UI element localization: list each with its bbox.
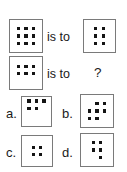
- dot: [32, 72, 35, 75]
- dot: [99, 141, 102, 144]
- premise-box-c: [9, 56, 43, 90]
- dot: [24, 72, 27, 75]
- dot: [92, 141, 95, 144]
- dot: [17, 42, 20, 45]
- option-label-d: d.: [62, 146, 73, 159]
- dot: [27, 99, 30, 102]
- dot: [88, 117, 91, 120]
- dot: [42, 99, 45, 102]
- dot: [99, 148, 102, 151]
- dot: [17, 27, 20, 30]
- dot: [17, 34, 20, 37]
- dot: [94, 42, 97, 45]
- dot: [24, 65, 27, 68]
- dot: [95, 102, 98, 105]
- dot: [32, 27, 35, 30]
- dot: [32, 65, 35, 68]
- dot: [24, 42, 27, 45]
- dot: [95, 117, 98, 120]
- dot-grid: [22, 136, 52, 166]
- dot: [35, 99, 38, 102]
- dot: [35, 107, 38, 110]
- dot: [32, 146, 35, 149]
- dot: [94, 34, 97, 37]
- option-label-a: a.: [6, 107, 17, 120]
- dot: [94, 27, 97, 30]
- relation-label-2: is to: [47, 68, 70, 81]
- dot: [17, 72, 20, 75]
- dot: [32, 42, 35, 45]
- dot: [102, 27, 105, 30]
- option-label-b: b.: [62, 107, 73, 120]
- dot-pattern-analogy-puzzle: is to is to ? a. b. c. d.: [0, 0, 127, 172]
- relation-label-1: is to: [47, 31, 70, 44]
- premise-box-a: [9, 19, 43, 53]
- option-box-d[interactable]: [80, 133, 114, 167]
- premise-box-b: [83, 19, 116, 53]
- dot-grid: [10, 57, 42, 89]
- option-label-c: c.: [6, 146, 16, 159]
- option-box-b[interactable]: [80, 94, 114, 128]
- dot: [24, 27, 27, 30]
- dot: [24, 34, 27, 37]
- dot-grid: [81, 95, 113, 127]
- dot: [17, 65, 20, 68]
- dot: [88, 109, 91, 112]
- dot: [32, 34, 35, 37]
- dot: [92, 148, 95, 151]
- dot: [32, 153, 35, 156]
- option-box-a[interactable]: [21, 96, 52, 127]
- dot: [102, 42, 105, 45]
- dot-grid: [84, 20, 115, 52]
- dot-grid: [10, 20, 42, 52]
- dot: [99, 156, 102, 159]
- dot: [102, 34, 105, 37]
- dot: [39, 146, 42, 149]
- dot: [95, 109, 98, 112]
- dot-grid: [81, 134, 113, 166]
- dot: [103, 102, 106, 105]
- dot-grid: [22, 97, 51, 126]
- dot: [103, 109, 106, 112]
- dot: [39, 153, 42, 156]
- option-box-c[interactable]: [21, 135, 53, 167]
- dot: [27, 107, 30, 110]
- question-mark: ?: [94, 66, 102, 80]
